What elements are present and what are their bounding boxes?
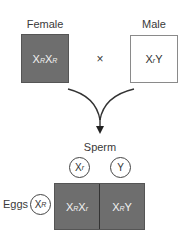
female-label: Female bbox=[21, 18, 69, 30]
male-allele-2: Y bbox=[155, 53, 162, 65]
cross-symbol: × bbox=[92, 52, 108, 66]
female-genotype-box: XR XR bbox=[21, 34, 69, 83]
sperm-label: Sperm bbox=[78, 141, 122, 153]
eggs-label: Eggs bbox=[3, 198, 31, 210]
female-allele-1: XR bbox=[33, 53, 45, 65]
sperm-gamete-xr: Xr bbox=[69, 157, 90, 178]
punnett-square: XR Xr XR Y bbox=[54, 183, 145, 230]
male-allele-1: Xr bbox=[145, 53, 155, 65]
sperm-gamete-y: Y bbox=[110, 157, 131, 178]
egg-gamete-xR: XR bbox=[30, 194, 51, 215]
punnett-cell-female-offspring: XR Xr bbox=[55, 184, 99, 229]
female-allele-2: XR bbox=[45, 53, 57, 65]
female-curve-icon bbox=[68, 89, 100, 120]
male-genotype-box: Xr Y bbox=[130, 35, 178, 83]
male-label: Male bbox=[130, 18, 178, 30]
punnett-cell-male-offspring: XR Y bbox=[99, 184, 144, 229]
male-curve-icon bbox=[100, 89, 134, 120]
arrow-down-icon bbox=[96, 126, 104, 134]
